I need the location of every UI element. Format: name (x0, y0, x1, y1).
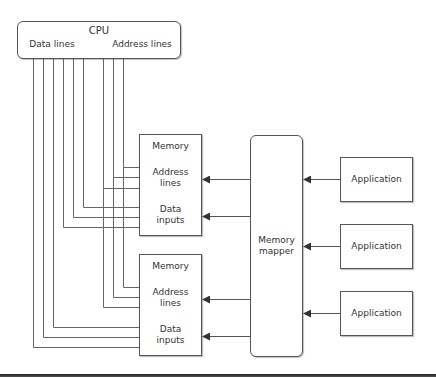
address-line-3-top (104, 58, 141, 189)
memory-data-label: Data inputs (140, 324, 201, 346)
address-line-2-top (114, 58, 141, 178)
address-label-line2: lines (140, 298, 201, 309)
data-line-2-bottom (44, 58, 141, 338)
memory-box-bottom: Memory Address lines Data inputs (139, 254, 202, 356)
data-line-4-top (84, 58, 141, 208)
application-label: Application (341, 308, 412, 319)
data-label-line1: Data (140, 324, 201, 335)
address-line-1-top (124, 58, 141, 168)
data-line-3-bottom (34, 58, 141, 348)
memory-data-label: Data inputs (140, 204, 201, 226)
data-line-6-top (64, 58, 141, 228)
mapper-label-line2: mapper (251, 246, 302, 257)
address-line-2-bottom (114, 178, 141, 298)
bottom-divider (0, 374, 436, 377)
data-label-line1: Data (140, 204, 201, 215)
data-label-line2: inputs (140, 335, 201, 346)
data-label-line2: inputs (140, 215, 201, 226)
cpu-box: CPU Data lines Address lines (17, 21, 181, 59)
address-label-line1: Address (140, 167, 201, 178)
address-label-line1: Address (140, 287, 201, 298)
cpu-address-lines-label: Address lines (106, 39, 178, 50)
memory-title: Memory (140, 261, 201, 272)
application-box-1: Application (340, 157, 413, 202)
memory-address-label: Address lines (140, 287, 201, 309)
cpu-title: CPU (18, 25, 180, 36)
application-box-3: Application (340, 291, 413, 336)
application-box-2: Application (340, 224, 413, 269)
memory-address-label: Address lines (140, 167, 201, 189)
memory-box-top: Memory Address lines Data inputs (139, 134, 202, 236)
address-label-line2: lines (140, 178, 201, 189)
memory-mapper-box: Memory mapper (250, 135, 303, 357)
mapper-label-line1: Memory (251, 235, 302, 246)
address-line-3-bottom (104, 189, 141, 308)
cpu-data-lines-label: Data lines (22, 39, 82, 50)
application-label: Application (341, 174, 412, 185)
application-label: Application (341, 241, 412, 252)
memory-mapper-label: Memory mapper (251, 235, 302, 257)
memory-title: Memory (140, 141, 201, 152)
